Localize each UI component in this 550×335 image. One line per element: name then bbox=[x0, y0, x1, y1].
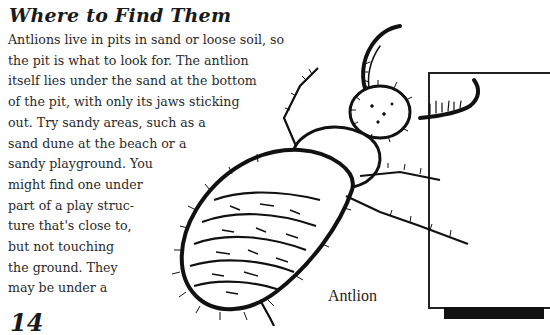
paragraph-line: of the pit, with only its jaws sticking bbox=[8, 92, 284, 113]
section-heading: Where to Find Them bbox=[9, 4, 231, 26]
figure-caption: Antlion bbox=[328, 287, 377, 305]
paragraph-line: itself lies under the sand at the bottom bbox=[8, 71, 284, 92]
sidebar-box-shadow bbox=[444, 307, 544, 319]
paragraph-line: may be under a bbox=[8, 278, 284, 299]
paragraph-line: Antlions live in pits in sand or loose s… bbox=[8, 30, 284, 51]
paragraph-line: the pit is what to look for. The antlion bbox=[8, 51, 284, 72]
page-number: 14 bbox=[10, 308, 43, 335]
paragraph-line: sand dune at the beach or a bbox=[8, 134, 284, 155]
paragraph-line: but not touching bbox=[8, 237, 284, 258]
paragraph-line: sandy playground. You bbox=[8, 154, 284, 175]
body-paragraph: Antlions live in pits in sand or loose s… bbox=[8, 30, 284, 299]
paragraph-line: might find one under bbox=[8, 175, 284, 196]
paragraph-line: the ground. They bbox=[8, 258, 284, 279]
paragraph-line: ture that's close to, bbox=[8, 216, 284, 237]
paragraph-line: part of a play struc- bbox=[8, 196, 284, 217]
sidebar-box bbox=[428, 72, 550, 309]
paragraph-line: out. Try sandy areas, such as a bbox=[8, 113, 284, 134]
